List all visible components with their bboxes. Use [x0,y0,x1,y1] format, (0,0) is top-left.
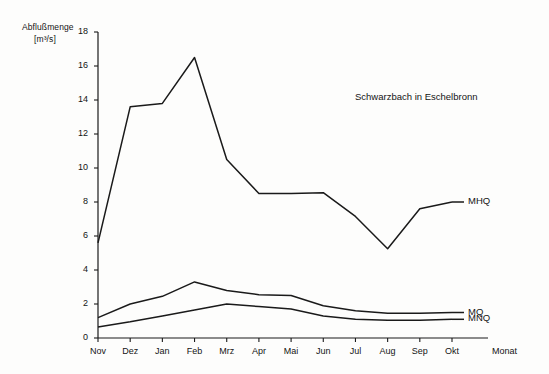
axis-lines [98,32,488,338]
y-tick-label: 4 [68,264,88,274]
y-tick-label: 8 [68,196,88,206]
x-tick-label: Okt [432,346,472,356]
y-tick-label: 18 [68,26,88,36]
series-label-mnq: MNQ [468,312,490,323]
series-label-mhq: MHQ [468,195,490,206]
series-line-mq [98,282,452,318]
series-line-mhq [98,58,452,249]
y-tick-label: 2 [68,298,88,308]
y-tick-label: 12 [68,128,88,138]
y-tick-label: 10 [68,162,88,172]
y-tick-label: 14 [68,94,88,104]
plot-area [0,0,549,374]
series-line-mnq [98,304,452,327]
y-tick-label: 6 [68,230,88,240]
series-polylines [98,58,464,327]
y-tick-label: 0 [68,332,88,342]
y-tick-label: 16 [68,60,88,70]
chart-figure: Abflußmenge [m³/s] Schwarzbach in Eschel… [0,0,549,374]
